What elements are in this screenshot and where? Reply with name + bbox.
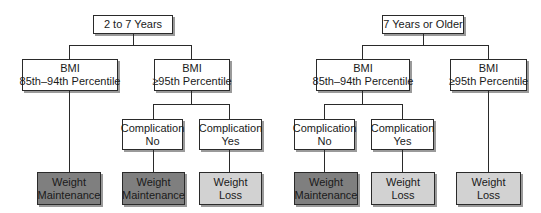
connector — [153, 104, 154, 119]
right-outcome-weight-maintenance: Weight Maintenance — [294, 172, 358, 205]
right-outcome-weight-loss-2: Weight Loss — [456, 172, 521, 205]
connector — [362, 91, 363, 104]
left-outcome-weight-loss: Weight Loss — [199, 172, 262, 205]
left-bmi-85-94: BMI 85th–94th Percentile — [22, 59, 118, 91]
connector — [324, 150, 325, 172]
right-root-age-7-plus: 7 Years or Older — [382, 15, 464, 34]
connector — [362, 45, 363, 59]
connector — [191, 45, 192, 59]
right-complication-yes: Complication Yes — [371, 119, 434, 150]
box-line: Loss — [391, 189, 414, 202]
left-outcome-weight-maintenance-1: Weight Maintenance — [37, 172, 101, 205]
left-bmi-95-plus: BMI ≥95th Percentile — [154, 59, 230, 91]
connector — [488, 91, 489, 172]
left-outcome-weight-maintenance-2: Weight Maintenance — [122, 172, 185, 205]
connector — [133, 34, 134, 45]
right-bmi-85-94: BMI 85th–94th Percentile — [316, 59, 410, 91]
box-line: Complication — [199, 122, 263, 135]
connector — [153, 104, 230, 105]
connector — [153, 150, 154, 172]
connector — [402, 150, 403, 172]
left-complication-yes: Complication Yes — [199, 119, 262, 150]
box-line: No — [317, 135, 331, 148]
box-line: Weight — [52, 176, 86, 189]
root-label: 2 to 7 Years — [104, 18, 162, 31]
connector — [69, 45, 192, 46]
box-line: BMI — [353, 62, 373, 75]
box-line: Complication — [121, 122, 185, 135]
connector — [324, 104, 325, 119]
box-line: Weight — [386, 176, 420, 189]
bmi-decision-flowchart: 2 to 7 Years BMI 85th–94th Percentile BM… — [0, 0, 541, 213]
box-line: Maintenance — [295, 189, 358, 202]
right-outcome-weight-loss-1: Weight Loss — [371, 172, 435, 205]
box-line: Complication — [293, 122, 357, 135]
connector — [488, 45, 489, 59]
box-line: Weight — [471, 176, 505, 189]
box-line: 85th–94th Percentile — [20, 75, 121, 88]
box-line: Loss — [477, 189, 500, 202]
connector — [402, 104, 403, 119]
box-line: 85th–94th Percentile — [313, 75, 414, 88]
box-line: Maintenance — [122, 189, 185, 202]
box-line: Weight — [136, 176, 170, 189]
right-bmi-95-plus: BMI ≥95th Percentile — [450, 59, 527, 91]
connector — [229, 150, 230, 172]
right-complication-no: Complication No — [294, 119, 355, 150]
box-line: Loss — [219, 189, 242, 202]
box-line: BMI — [479, 62, 499, 75]
connector — [362, 45, 489, 46]
box-line: Yes — [394, 135, 412, 148]
root-label: 7 Years or Older — [383, 18, 463, 31]
connector — [423, 34, 424, 45]
connector — [69, 45, 70, 59]
box-line: BMI — [60, 62, 80, 75]
connector — [191, 91, 192, 104]
box-line: Weight — [309, 176, 343, 189]
left-root-age-2-to-7: 2 to 7 Years — [93, 15, 173, 34]
box-line: Yes — [222, 135, 240, 148]
connector — [324, 104, 403, 105]
box-line: Complication — [371, 122, 435, 135]
box-line: Maintenance — [38, 189, 101, 202]
box-line: No — [145, 135, 159, 148]
left-complication-no: Complication No — [122, 119, 183, 150]
box-line: ≥95th Percentile — [152, 75, 231, 88]
box-line: BMI — [182, 62, 202, 75]
connector — [229, 104, 230, 119]
box-line: ≥95th Percentile — [449, 75, 528, 88]
box-line: Weight — [213, 176, 247, 189]
connector — [69, 91, 70, 172]
